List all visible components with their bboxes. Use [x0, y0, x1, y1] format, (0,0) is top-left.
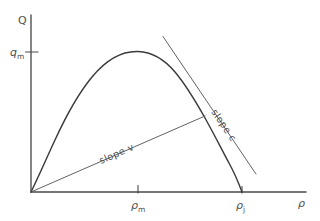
x-tick-label-rho-j-base: ρ: [236, 199, 243, 212]
x-tick-label-rho-m-base: ρ: [131, 199, 138, 212]
flow-density-figure: Q ρ qm ρm ρj slope v slope c: [0, 0, 320, 221]
x-axis-label: ρ: [298, 197, 305, 210]
axes-group: [31, 15, 306, 192]
svg-text:ρm: ρm: [131, 199, 145, 214]
svg-text:ρj: ρj: [236, 199, 245, 214]
slope-c-line-group: [163, 37, 256, 175]
x-tick-label-rho-m-sub: m: [138, 205, 145, 214]
svg-text:qm: qm: [10, 46, 24, 61]
flow-density-curve: [31, 51, 242, 192]
flow-density-curve-group: [31, 51, 242, 192]
x-tick-label-rho-j-sub: j: [242, 205, 245, 214]
slope-v-annotation: slope v: [97, 141, 135, 166]
slope-c-tangent-line: [163, 37, 256, 175]
y-tick-label-qm-base: q: [10, 46, 17, 59]
x-tick-label-rho-j: ρj: [236, 199, 245, 214]
x-tick-label-rho-m: ρm: [131, 199, 145, 214]
y-tick-label-qm: qm: [10, 46, 24, 61]
slope-c-annotation: slope c: [209, 107, 239, 143]
figure-canvas: Q ρ qm ρm ρj slope v slope c: [0, 0, 320, 221]
y-axis-label: Q: [18, 14, 27, 27]
y-tick-label-qm-sub: m: [17, 52, 24, 61]
ticks-group: [26, 52, 243, 193]
